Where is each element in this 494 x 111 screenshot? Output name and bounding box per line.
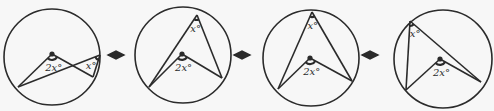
circle-outline <box>4 9 100 105</box>
center-point <box>49 51 54 56</box>
circle-panel-4: 2x°x° <box>394 10 492 108</box>
circle-panel-2: 2x°x° <box>135 7 231 103</box>
circle-panel-3: 2x°x° <box>263 10 359 106</box>
inscribed-angle-arc <box>310 16 315 17</box>
center-point <box>437 56 442 61</box>
central-angle-label: 2x° <box>174 62 192 73</box>
inscribed-angle-label: x° <box>190 23 201 34</box>
circle-outline <box>394 10 492 108</box>
central-angle-label: 2x° <box>302 66 320 77</box>
inscribed-angle-label: x° <box>86 60 97 71</box>
inscribed-angle-label: x° <box>410 28 421 39</box>
inscribed-angle-arc <box>194 19 199 20</box>
inscribed-angle-diagram: 2x°x° 2x°x° 2x°x° 2x°x° <box>0 0 494 111</box>
center-point <box>179 51 184 56</box>
central-angle-label: 2x° <box>432 67 450 78</box>
center-point <box>307 55 312 60</box>
circle-panel-1: 2x°x° <box>4 9 100 105</box>
inscribed-angle-label: x° <box>307 20 318 31</box>
central-angle-label: 2x° <box>44 62 62 73</box>
